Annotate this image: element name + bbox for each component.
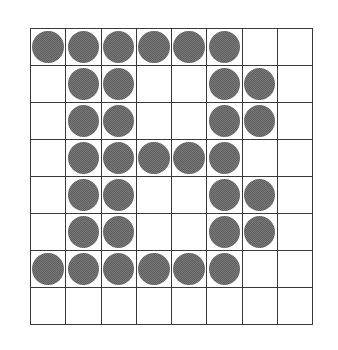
grid-cell-empty bbox=[30, 287, 65, 324]
grid-cell-filled bbox=[101, 250, 136, 287]
filled-circle-icon bbox=[68, 179, 100, 211]
filled-circle-icon bbox=[209, 68, 241, 100]
grid-cell-empty bbox=[277, 213, 312, 250]
grid-cell-filled bbox=[206, 250, 241, 287]
filled-circle-icon bbox=[209, 105, 241, 137]
grid-cell-filled bbox=[101, 176, 136, 213]
filled-circle-icon bbox=[103, 142, 135, 174]
grid-cell-empty bbox=[242, 250, 277, 287]
filled-circle-icon bbox=[138, 31, 170, 63]
grid-cell-empty bbox=[30, 213, 65, 250]
filled-circle-icon bbox=[103, 253, 135, 285]
grid-cell-empty bbox=[277, 139, 312, 176]
filled-circle-icon bbox=[209, 216, 241, 248]
grid-cell-empty bbox=[171, 176, 206, 213]
grid-cell-empty bbox=[277, 102, 312, 139]
filled-circle-icon bbox=[32, 31, 64, 63]
grid-cell-filled bbox=[101, 102, 136, 139]
filled-circle-icon bbox=[103, 105, 135, 137]
filled-circle-icon bbox=[209, 253, 241, 285]
filled-circle-icon bbox=[138, 142, 170, 174]
grid-cell-empty bbox=[242, 28, 277, 65]
filled-circle-icon bbox=[209, 179, 241, 211]
filled-circle-icon bbox=[173, 142, 205, 174]
grid-cell-filled bbox=[206, 139, 241, 176]
grid-cell-filled bbox=[65, 176, 100, 213]
grid-cell-empty bbox=[136, 102, 171, 139]
grid-cell-filled bbox=[171, 250, 206, 287]
grid-cell-filled bbox=[65, 213, 100, 250]
grid-cell-empty bbox=[242, 139, 277, 176]
filled-circle-icon bbox=[173, 253, 205, 285]
grid-cell-filled bbox=[171, 28, 206, 65]
grid-cell-filled bbox=[101, 139, 136, 176]
filled-circle-icon bbox=[68, 31, 100, 63]
filled-circle-icon bbox=[103, 68, 135, 100]
grid-cell-filled bbox=[30, 28, 65, 65]
dot-matrix-grid bbox=[30, 28, 313, 325]
grid-cell-empty bbox=[277, 176, 312, 213]
filled-circle-icon bbox=[32, 253, 64, 285]
grid-cell-empty bbox=[171, 65, 206, 102]
filled-circle-icon bbox=[103, 179, 135, 211]
grid-cell-filled bbox=[101, 28, 136, 65]
filled-circle-icon bbox=[68, 68, 100, 100]
grid-cell-filled bbox=[242, 213, 277, 250]
grid-cell-empty bbox=[277, 287, 312, 324]
grid-cell-filled bbox=[171, 139, 206, 176]
grid-cell-filled bbox=[206, 213, 241, 250]
grid-cell-filled bbox=[206, 176, 241, 213]
grid-cell-empty bbox=[277, 250, 312, 287]
grid-cell-filled bbox=[136, 139, 171, 176]
filled-circle-icon bbox=[103, 31, 135, 63]
grid-cell-filled bbox=[65, 65, 100, 102]
grid-cell-empty bbox=[206, 287, 241, 324]
filled-circle-icon bbox=[244, 105, 276, 137]
filled-circle-icon bbox=[209, 142, 241, 174]
filled-circle-icon bbox=[68, 105, 100, 137]
grid-cell-filled bbox=[206, 28, 241, 65]
grid-cell-empty bbox=[136, 176, 171, 213]
grid-cell-empty bbox=[171, 213, 206, 250]
filled-circle-icon bbox=[209, 31, 241, 63]
grid-cell-filled bbox=[30, 250, 65, 287]
grid-cell-empty bbox=[65, 287, 100, 324]
filled-circle-icon bbox=[244, 68, 276, 100]
grid-cell-filled bbox=[242, 65, 277, 102]
grid-cell-filled bbox=[136, 28, 171, 65]
grid-cell-empty bbox=[136, 65, 171, 102]
grid-cell-filled bbox=[206, 65, 241, 102]
grid-cell-empty bbox=[277, 65, 312, 102]
filled-circle-icon bbox=[68, 216, 100, 248]
grid-cell-empty bbox=[136, 213, 171, 250]
filled-circle-icon bbox=[138, 253, 170, 285]
grid-cell-empty bbox=[30, 139, 65, 176]
filled-circle-icon bbox=[244, 179, 276, 211]
grid-cell-empty bbox=[171, 102, 206, 139]
filled-circle-icon bbox=[244, 216, 276, 248]
grid-cell-filled bbox=[65, 250, 100, 287]
filled-circle-icon bbox=[68, 142, 100, 174]
grid-cell-filled bbox=[242, 102, 277, 139]
grid-cell-empty bbox=[171, 287, 206, 324]
grid-cell-filled bbox=[65, 139, 100, 176]
grid-cell-filled bbox=[101, 213, 136, 250]
grid-cell-empty bbox=[30, 65, 65, 102]
filled-circle-icon bbox=[173, 31, 205, 63]
grid-cell-empty bbox=[30, 102, 65, 139]
grid-cell-filled bbox=[136, 250, 171, 287]
grid-cell-filled bbox=[65, 102, 100, 139]
grid-cell-empty bbox=[30, 176, 65, 213]
grid-cell-empty bbox=[101, 287, 136, 324]
filled-circle-icon bbox=[68, 253, 100, 285]
grid-cell-filled bbox=[206, 102, 241, 139]
grid-cell-filled bbox=[65, 28, 100, 65]
grid-cell-empty bbox=[242, 287, 277, 324]
grid-cell-filled bbox=[242, 176, 277, 213]
grid-cell-empty bbox=[136, 287, 171, 324]
filled-circle-icon bbox=[103, 216, 135, 248]
grid-cell-filled bbox=[101, 65, 136, 102]
grid-cell-empty bbox=[277, 28, 312, 65]
